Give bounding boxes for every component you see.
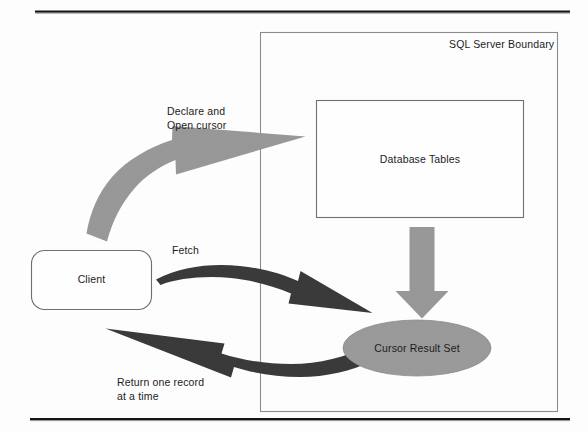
declare-open-cursor-label-line2: Open cursor: [167, 119, 226, 133]
declare-open-cursor-arrow: [87, 126, 306, 242]
tables-to-cursor-arrow: [396, 227, 449, 319]
diagram-page: SQL Server Boundary Database Tables Clie…: [0, 0, 588, 431]
bottom-rule: [30, 418, 570, 421]
top-rule: [35, 11, 570, 14]
fetch-label: Fetch: [172, 244, 199, 258]
fetch-arrow: [156, 265, 373, 313]
return-record-label-line1: Return one record: [117, 376, 204, 390]
return-record-label-line2: at a time: [117, 390, 159, 404]
diagram-canvas: [0, 0, 588, 431]
return-record-arrow: [106, 329, 373, 378]
database-tables-label: Database Tables: [316, 153, 524, 167]
declare-open-cursor-label-line1: Declare and: [167, 105, 225, 119]
client-label: Client: [31, 273, 152, 287]
sql-server-boundary-label: SQL Server Boundary: [449, 38, 554, 52]
cursor-result-set-label: Cursor Result Set: [343, 342, 491, 356]
